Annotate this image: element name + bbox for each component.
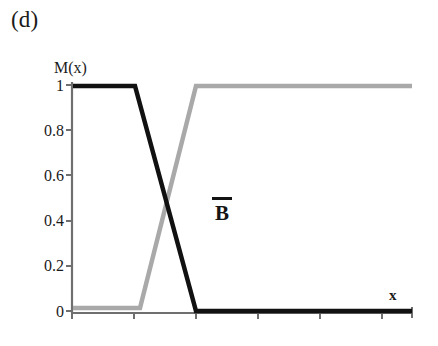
- series-b-complement-line: [73, 86, 412, 308]
- plot-area: [0, 0, 438, 346]
- series-b-line: [73, 86, 412, 311]
- figure-panel-d: (d) M(x) x 1 0.8 0.6 0.4 0.2 0 B: [0, 0, 438, 346]
